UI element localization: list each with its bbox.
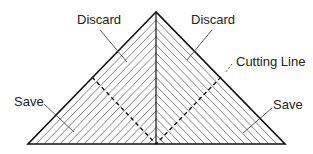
label-cutting-line: Cutting Line [236, 55, 305, 69]
label-save-right: Save [273, 98, 303, 112]
triangle-cutting-diagram [0, 0, 313, 154]
label-save-left: Save [14, 95, 44, 109]
leader-save-right [243, 108, 272, 133]
label-discard-right: Discard [191, 13, 235, 27]
leader-cutting-line [225, 64, 232, 73]
label-discard-left: Discard [77, 13, 121, 27]
